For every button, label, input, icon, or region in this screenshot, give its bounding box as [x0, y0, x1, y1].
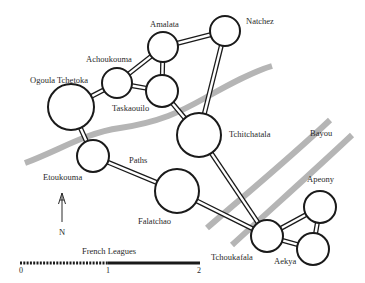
bayou-label: Bayou	[310, 128, 333, 138]
scale-bar: French Leagues 0 1 2	[19, 246, 201, 275]
settlement-label-falatchao: Falatchao	[138, 216, 171, 226]
paths-label: Paths	[129, 155, 147, 165]
settlement-tchitchatala	[177, 113, 221, 157]
settlement-map: Ogoula TchetokaAchoukoumaAmalataNatchezT…	[0, 0, 365, 283]
settlement-label-tchitchatala: Tchitchatala	[229, 129, 271, 139]
settlement-label-ogoula-tchetoka: Ogoula Tchetoka	[30, 75, 88, 85]
path-ogoula-tchetoka-achoukouma	[91, 89, 105, 96]
settlement-label-etoukouma: Etoukouma	[43, 172, 82, 182]
north-arrow: N	[59, 193, 66, 237]
settlement-achoukouma	[102, 68, 132, 98]
path-achoukouma-taskaouilo	[131, 85, 147, 88]
path-line	[177, 34, 212, 43]
settlement-label-aekya: Aekya	[274, 256, 296, 266]
settlement-label-natchez: Natchez	[246, 16, 274, 26]
settlement-etoukouma	[77, 140, 109, 172]
path-line	[204, 45, 222, 115]
settlement-tchoukafala	[251, 220, 283, 252]
scale-tick-label: 2	[197, 266, 201, 275]
settlement-label-achoukouma: Achoukouma	[86, 54, 132, 64]
scale-tick-label: 0	[19, 266, 23, 275]
north-label: N	[59, 227, 65, 237]
path-tchoukafala-aekya	[281, 240, 298, 245]
settlement-label-amalata: Amalata	[150, 19, 179, 29]
settlement-falatchao	[155, 169, 199, 213]
path-tchoukafala-apeony	[280, 214, 307, 229]
settlement-natchez	[210, 16, 240, 46]
settlement-label-tchoukafala: Tchoukafala	[211, 252, 253, 262]
settlement-label-apeony: Apeony	[307, 174, 335, 184]
path-line	[280, 214, 307, 229]
settlement-ogoula-tchetoka	[48, 84, 94, 130]
path-amalata-natchez	[177, 34, 212, 43]
scale-title: French Leagues	[82, 246, 136, 256]
path-natchez-tchitchatala	[204, 45, 222, 115]
settlement-taskaouilo	[146, 75, 178, 107]
scale-tick-label: 1	[106, 266, 110, 275]
settlement-amalata	[148, 32, 178, 62]
settlement-apeony	[304, 191, 336, 223]
settlement-label-taskaouilo: Taskaouilo	[112, 103, 149, 113]
settlement-aekya	[297, 233, 329, 265]
